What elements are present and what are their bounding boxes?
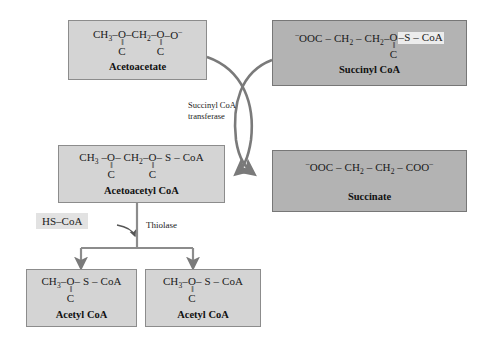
atom-carbon: C (390, 49, 397, 60)
cofactor-hs-coa[interactable]: HS–CoA (36, 213, 88, 229)
atom-oxygen-terminal: O (170, 28, 178, 40)
text-ch2: CH (132, 28, 147, 40)
text-ch3: CH (41, 275, 56, 287)
bond-dash: – (397, 160, 403, 172)
compound-name-acetoacetyl-coa: Acetoacetyl CoA (104, 185, 179, 196)
charge-negative: – (178, 27, 182, 36)
formula-acetoacetate: CH3–O‖C–CH2–O‖C–O– (93, 28, 182, 60)
compound-name-succinyl-coa: Succinyl CoA (339, 64, 400, 75)
bond-dash: – (413, 31, 419, 43)
bond-dash: – (92, 275, 98, 287)
bond-dash: – (115, 151, 121, 163)
carbonyl-group-1: O‖C (118, 30, 126, 57)
sub-2: 2 (360, 166, 364, 175)
atom-carbon: C (157, 46, 164, 57)
bond-dash: – (174, 151, 180, 163)
reaction-diagram: CH3–O‖C–CH2–O‖C–O– Acetoacetate –OOC – C… (0, 0, 493, 350)
compound-box-acetyl-coa-right[interactable]: CH3–O‖C– S – CoA Acetyl CoA (145, 269, 261, 327)
text-ch2: CH (334, 31, 349, 43)
text-ch2: CH (344, 160, 359, 172)
compound-box-acetoacetyl-coa[interactable]: CH3 – O‖C – CH2–O‖C– S – CoA Acetoacetyl… (58, 145, 225, 203)
text-ooc: OOC (299, 31, 323, 43)
bond-dash: – (336, 160, 342, 172)
atom-sulfur: S (204, 275, 210, 287)
formula-acetoacetyl-coa: CH3 – O‖C – CH2–O‖C– S – CoA (79, 152, 203, 182)
thioester-highlight: –S – CoA (398, 32, 444, 44)
bond-dash: – (213, 275, 219, 287)
carbonyl-group-1: O‖C (107, 153, 115, 180)
sub-3: 3 (95, 158, 99, 167)
text-ooc: OOC (310, 160, 334, 172)
text-ch3: CH (163, 275, 178, 287)
enzyme-label-line2: transferase (188, 111, 236, 122)
arrow-succinyl-to-succinate (235, 60, 272, 174)
bond-dash: – (74, 275, 80, 287)
arrow-hs-coa-input (117, 225, 135, 236)
enzyme-label-line1: Succinyl CoA (188, 100, 236, 111)
sub-2: 2 (349, 37, 353, 46)
bond-dash: – (325, 31, 331, 43)
compound-box-succinate[interactable]: –OOC – CH2 – CH2 – COO– Succinate (272, 150, 467, 212)
formula-acetyl-coa-right: CH3–O‖C– S – CoA (163, 276, 243, 306)
compound-name-acetoacetate: Acetoacetate (109, 61, 166, 72)
charge-negative: – (429, 159, 433, 168)
compound-name-acetyl-coa-left: Acetyl CoA (56, 309, 108, 320)
bond-dash: – (356, 31, 362, 43)
sub-2: 2 (391, 166, 395, 175)
formula-acetyl-coa-left: CH3–O‖C– S – CoA (41, 276, 121, 306)
atom-sulfur: S (404, 31, 410, 43)
atom-carbon: C (188, 293, 195, 304)
text-hs: HS (42, 215, 56, 227)
carbonyl-group-2: O‖C (149, 153, 157, 180)
formula-succinate: –OOC – CH2 – CH2 – COO– (306, 160, 433, 180)
text-coo: COO (406, 160, 430, 172)
atom-carbon: C (107, 169, 114, 180)
atom-sulfur: S (83, 275, 89, 287)
text-coa: CoA (62, 215, 83, 227)
bond-dash: – (196, 275, 202, 287)
text-ch2: CH (375, 160, 390, 172)
text-coa: CoA (222, 275, 243, 287)
compound-name-acetyl-coa-right: Acetyl CoA (177, 309, 229, 320)
bond-dash: – (157, 151, 163, 163)
bond-dash: – (367, 160, 373, 172)
text-ch2: CH (365, 31, 380, 43)
carbonyl-group: O‖C (66, 277, 74, 304)
carbonyl-group-2: O‖C (157, 30, 165, 57)
compound-box-succinyl-coa[interactable]: –OOC – CH2 – CH2–O‖C–S – CoA Succinyl Co… (272, 20, 467, 86)
atom-carbon: C (67, 293, 74, 304)
enzyme-label-succinyl-coa-transferase: Succinyl CoA transferase (188, 100, 236, 122)
text-ch3: CH (93, 28, 108, 40)
carbonyl-group: O‖C (390, 33, 398, 60)
atom-carbon: C (118, 46, 125, 57)
formula-succinyl-coa: –OOC – CH2 – CH2–O‖C–S – CoA (295, 31, 444, 63)
carbonyl-group: O‖C (188, 277, 196, 304)
compound-box-acetyl-coa-left[interactable]: CH3–O‖C– S – CoA Acetyl CoA (26, 269, 137, 327)
enzyme-label-thiolase-text: Thiolase (146, 220, 177, 230)
text-ch2: CH (124, 151, 139, 163)
atom-carbon: C (149, 169, 156, 180)
text-coa: CoA (183, 151, 204, 163)
compound-box-acetoacetate[interactable]: CH3–O‖C–CH2–O‖C–O– Acetoacetate (68, 20, 207, 80)
text-ch3: CH (79, 151, 94, 163)
compound-name-succinate: Succinate (348, 191, 391, 202)
atom-sulfur: S (165, 151, 171, 163)
text-coa: CoA (100, 275, 121, 287)
text-coa: CoA (422, 31, 443, 43)
enzyme-label-thiolase: Thiolase (146, 220, 177, 231)
